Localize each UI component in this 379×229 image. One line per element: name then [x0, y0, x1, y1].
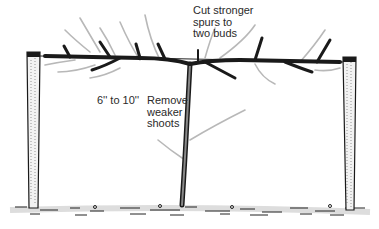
vine-illustration — [0, 0, 379, 229]
height-label: 6'' to 10'' — [97, 95, 139, 107]
left-post — [27, 52, 40, 208]
vine — [45, 38, 340, 205]
remove-shoots-label: Remove weaker shoots — [147, 95, 188, 130]
ground — [10, 205, 370, 216]
right-post — [343, 57, 356, 210]
pruning-diagram: Cut stronger spurs to two buds 6'' to 10… — [0, 0, 379, 229]
cut-spurs-label: Cut stronger spurs to two buds — [193, 5, 254, 40]
